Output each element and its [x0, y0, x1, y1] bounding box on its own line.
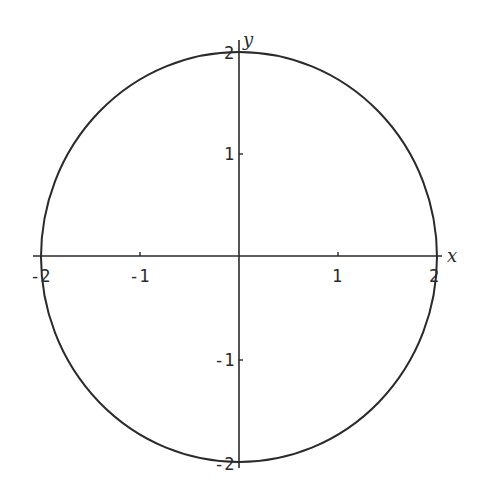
y-axis-label: y — [242, 29, 254, 50]
x-tick-label: -2 — [30, 266, 50, 286]
x-tick-label: 2 — [429, 266, 439, 286]
y-tick-label: -1 — [214, 350, 234, 370]
x-tick-label: -1 — [129, 266, 149, 286]
y-tick-label: 1 — [224, 144, 234, 164]
y-tick-label: 2 — [224, 43, 234, 63]
x-axis-label: x — [447, 245, 457, 266]
plot-canvas: -2 -1 1 2 2 1 -1 -2 x y — [0, 0, 487, 497]
x-tick-label: 1 — [332, 266, 342, 286]
y-tick-label: -2 — [214, 454, 234, 474]
